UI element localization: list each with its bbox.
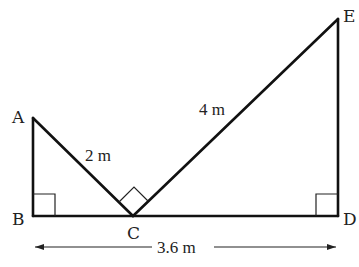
label-b: B xyxy=(12,209,25,229)
right-angle-marker-b xyxy=(33,194,55,216)
measurement-ac: 2 m xyxy=(85,146,111,165)
right-angle-marker-c xyxy=(119,187,148,202)
segment-ac xyxy=(33,118,133,216)
label-a: A xyxy=(11,107,25,127)
right-angle-marker-d xyxy=(316,194,338,216)
label-d: D xyxy=(343,209,357,229)
label-c: C xyxy=(127,223,140,243)
label-e: E xyxy=(343,6,355,26)
geometry-diagram: A B C D E 2 m 4 m 3.6 m xyxy=(0,0,359,267)
segment-ce xyxy=(133,19,338,216)
measurement-bd: 3.6 m xyxy=(157,238,196,257)
measurement-ce: 4 m xyxy=(199,100,225,119)
